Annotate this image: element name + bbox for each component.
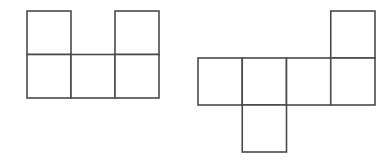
net-square [331, 11, 375, 58]
net-square [27, 11, 71, 55]
net-square [115, 55, 159, 99]
right-net [198, 11, 375, 152]
net-square [242, 105, 286, 152]
net-square [198, 58, 242, 105]
net-square [115, 11, 159, 55]
net-square [287, 58, 331, 105]
figure-canvas [0, 0, 388, 165]
net-square [27, 55, 71, 99]
net-square [242, 58, 286, 105]
net-square [71, 55, 115, 99]
net-square [331, 58, 375, 105]
left-net [27, 11, 159, 98]
